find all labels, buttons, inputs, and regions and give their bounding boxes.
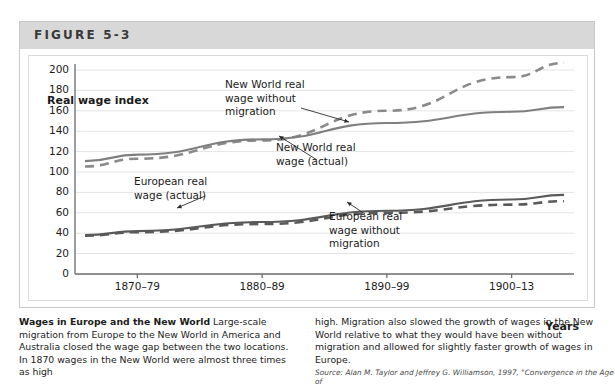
- caption-column-right: high. Migration also slowed the growth o…: [315, 316, 595, 366]
- figure-box: FIGURE 5-3 Real wage index Years 200 180…: [19, 21, 595, 308]
- annotation-europe-without-migration: European real wage without migration: [329, 210, 402, 251]
- caption-column-left: Wages in Europe and the New World Large-…: [19, 316, 299, 379]
- chart-plot-panel: Real wage index Years 200 180 160 140 12…: [28, 55, 588, 301]
- annotation-new-world-without-migration: New World real wage without migration: [225, 78, 305, 119]
- caption-title: Wages in Europe and the New World: [19, 316, 210, 327]
- figure-caption: Wages in Europe and the New World Large-…: [19, 316, 595, 384]
- annotation-new-world-actual: New World real wage (actual): [276, 141, 356, 168]
- annotation-europe-actual: European real wage (actual): [134, 175, 207, 202]
- caption-source: Source: Alan M. Taylor and Jeffrey G. Wi…: [315, 368, 615, 384]
- chart-canvas: [29, 56, 589, 302]
- figure-number-label: FIGURE 5-3: [34, 28, 132, 42]
